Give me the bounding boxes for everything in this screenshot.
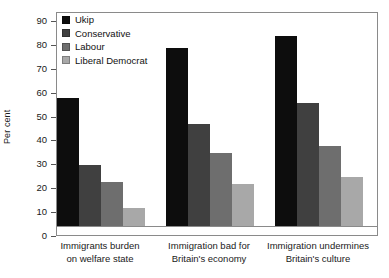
x-axis-category-label-line: Britain's economy	[153, 252, 265, 265]
legend-swatch-icon	[62, 29, 70, 37]
bar	[319, 146, 341, 227]
bar	[210, 153, 232, 227]
x-axis-category-label-line: Immigrants burden	[44, 239, 156, 252]
legend-item-labour: Labour	[62, 40, 184, 53]
y-axis-tick-label: 20	[21, 181, 47, 194]
y-axis-tick-label: 60	[21, 86, 47, 99]
bar	[297, 103, 319, 227]
x-axis-category-label: Immigration underminesBritain's culture	[262, 239, 374, 265]
y-axis-tick-mark	[51, 236, 56, 237]
bar	[232, 184, 254, 227]
y-axis-title: Per cent	[0, 92, 14, 162]
bar	[166, 48, 188, 227]
legend-item-conservative: Conservative	[62, 27, 184, 40]
bar	[275, 36, 297, 227]
x-axis-category-label-line: Immigration undermines	[262, 239, 374, 252]
y-axis-tick-label: 90	[21, 14, 47, 27]
legend-swatch-icon	[62, 16, 70, 24]
bar-group	[275, 13, 363, 235]
legend-label: Conservative	[75, 27, 130, 40]
x-axis-baseline	[57, 226, 377, 227]
bar	[188, 124, 210, 227]
legend-item-liberal-democrat: Liberal Democrat	[62, 54, 184, 67]
bar	[341, 177, 363, 227]
x-axis-category-label-line: Immigration bad for	[153, 239, 265, 252]
legend-item-ukip: Ukip	[62, 13, 184, 26]
y-axis-tick-label: 10	[21, 205, 47, 218]
legend-swatch-icon	[62, 56, 70, 64]
bar	[79, 165, 101, 227]
bar	[123, 208, 145, 227]
y-axis-tick-label: 40	[21, 133, 47, 146]
y-axis-tick-label: 50	[21, 110, 47, 123]
y-axis-tick-label: 30	[21, 157, 47, 170]
x-axis-category-label-line: Britain's culture	[262, 252, 374, 265]
x-axis-labels: Immigrants burdenon welfare stateImmigra…	[56, 239, 378, 275]
legend-swatch-icon	[62, 43, 70, 51]
bar	[101, 182, 123, 227]
legend-label: Ukip	[75, 13, 94, 26]
x-axis-category-label-line: on welfare state	[44, 252, 156, 265]
legend-label: Labour	[75, 40, 105, 53]
chart-legend: UkipConservativeLabourLiberal Democrat	[62, 13, 184, 67]
y-axis-tick-label: 70	[21, 62, 47, 75]
legend-label: Liberal Democrat	[75, 54, 147, 67]
x-axis-category-label: Immigrants burdenon welfare state	[44, 239, 156, 265]
bar-chart: Per cent 9080706050403020100 UkipConserv…	[0, 0, 389, 278]
y-axis: 9080706050403020100	[16, 21, 56, 236]
y-axis-tick-label: 80	[21, 38, 47, 51]
x-axis-category-label: Immigration bad forBritain's economy	[153, 239, 265, 265]
bar	[57, 98, 79, 227]
